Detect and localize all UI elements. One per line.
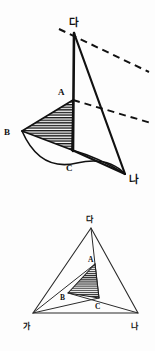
label-apex-da-bottom: 다 [86, 214, 94, 224]
geometry-figure: 다 A B C 나 다 A B C 가 나 [0, 0, 155, 351]
label-point-c-bottom: C [95, 302, 100, 311]
label-point-c-top: C [66, 163, 73, 173]
label-point-b-top: B [4, 127, 10, 137]
label-point-b-bottom: B [60, 293, 65, 302]
label-point-a-bottom: A [88, 255, 94, 264]
cone-axis-line [73, 33, 74, 151]
label-vertex-na-bottom: 나 [131, 321, 139, 331]
figure-page: 다 A B C 나 다 A B C 가 나 [0, 0, 155, 351]
label-vertex-na-top: 나 [129, 173, 139, 185]
label-vertex-ga-bottom: 가 [23, 321, 31, 331]
label-apex-da-top: 다 [69, 16, 79, 28]
label-point-a-top: A [58, 87, 65, 97]
